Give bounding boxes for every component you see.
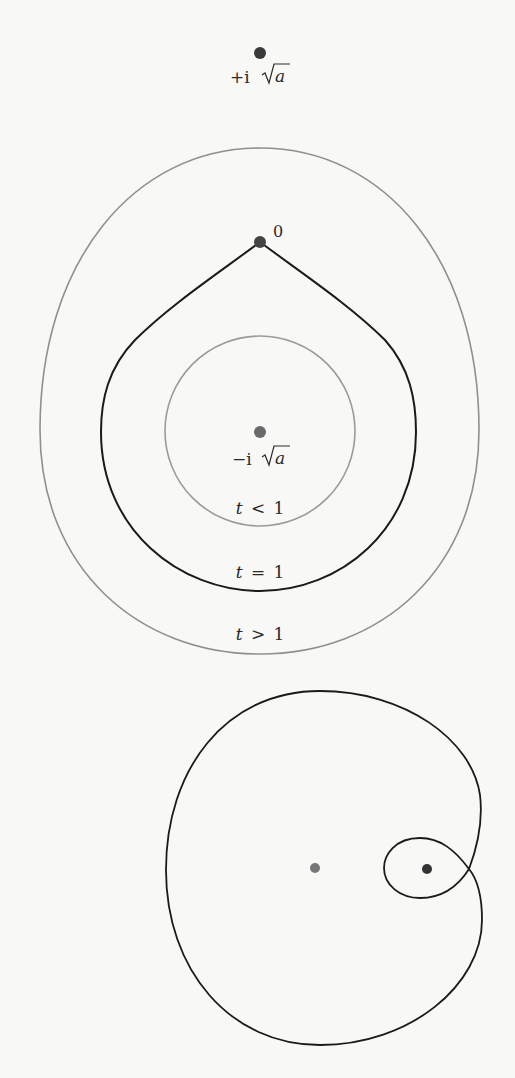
label-radicand: a xyxy=(275,448,285,468)
label-origin: 0 xyxy=(273,222,283,241)
label-t-equal-1: t = 1 xyxy=(236,562,285,582)
point-minus-i-sqrt-a xyxy=(254,426,266,438)
contour-diagram: +i a 0 −i a t < 1 t xyxy=(0,0,515,1078)
label-prefix: +i xyxy=(230,67,250,87)
label-plus-i-sqrt-a: +i a xyxy=(230,64,290,87)
point-plus-i-sqrt-a xyxy=(254,47,266,59)
label-minus-i-sqrt-a: −i a xyxy=(232,446,290,469)
label-radicand: a xyxy=(275,66,285,86)
point-left xyxy=(310,863,320,873)
label-t-less-1: t < 1 xyxy=(236,498,285,518)
label-t-greater-1: t > 1 xyxy=(236,624,285,644)
top-figure: +i a 0 −i a t < 1 t xyxy=(40,47,479,654)
bottom-figure xyxy=(166,691,482,1045)
svg-text:−i: −i xyxy=(232,449,252,469)
label-prefix: −i xyxy=(232,449,252,469)
point-origin xyxy=(254,236,266,248)
svg-text:+i: +i xyxy=(230,67,250,87)
point-right xyxy=(422,864,432,874)
curve-t-equal-1 xyxy=(101,242,416,591)
looped-curve xyxy=(166,691,482,1045)
